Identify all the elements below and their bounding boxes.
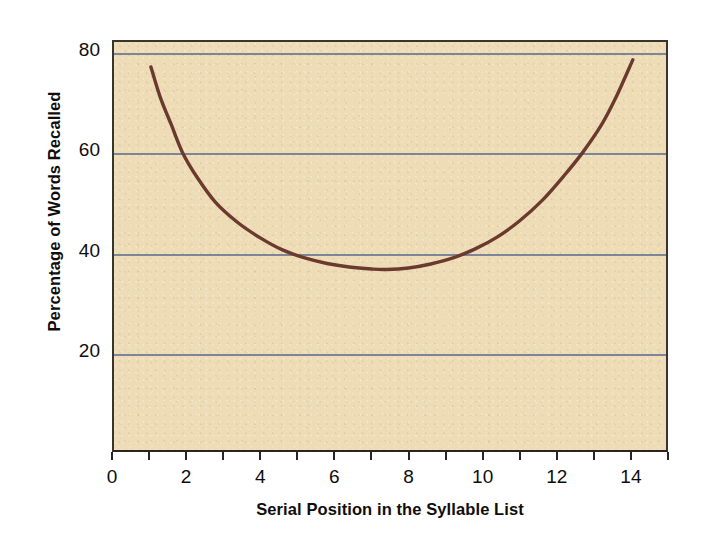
y-tick-label-60: 60 <box>54 139 100 161</box>
paper-texture <box>114 42 666 450</box>
x-tick-4 <box>259 452 261 460</box>
x-tick-label-8: 8 <box>384 466 434 488</box>
x-tick-12 <box>556 452 558 460</box>
x-tick-7 <box>370 452 372 460</box>
gridline-y-80 <box>114 53 666 55</box>
x-axis-title: Serial Position in the Syllable List <box>112 500 668 519</box>
x-tick-15 <box>667 452 669 460</box>
x-tick-label-4: 4 <box>235 466 285 488</box>
x-tick-1 <box>148 452 150 460</box>
x-tick-0 <box>111 452 113 460</box>
y-tick-label-20: 20 <box>54 340 100 362</box>
gridline-y-60 <box>114 153 666 155</box>
y-tick-label-80: 80 <box>54 39 100 61</box>
x-tick-label-10: 10 <box>458 466 508 488</box>
x-tick-8 <box>408 452 410 460</box>
x-tick-11 <box>519 452 521 460</box>
y-tick-label-40: 40 <box>54 240 100 262</box>
x-tick-label-12: 12 <box>532 466 582 488</box>
x-tick-14 <box>630 452 632 460</box>
gridline-y-40 <box>114 254 666 256</box>
x-tick-9 <box>445 452 447 460</box>
gridline-y-20 <box>114 354 666 356</box>
plot-area <box>112 40 668 452</box>
x-tick-6 <box>333 452 335 460</box>
x-tick-10 <box>482 452 484 460</box>
x-tick-13 <box>593 452 595 460</box>
x-tick-label-0: 0 <box>87 466 137 488</box>
x-tick-label-2: 2 <box>161 466 211 488</box>
x-tick-2 <box>185 452 187 460</box>
x-tick-label-6: 6 <box>309 466 359 488</box>
x-tick-3 <box>222 452 224 460</box>
serial-position-curve-figure: Percentage of Words Recalled 20406080 Se… <box>0 0 704 549</box>
x-tick-label-14: 14 <box>606 466 656 488</box>
x-tick-5 <box>296 452 298 460</box>
